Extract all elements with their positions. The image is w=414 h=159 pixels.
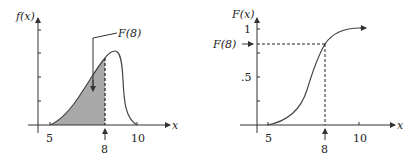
right-tick-10: 10 (353, 132, 367, 145)
right-y-label: F(x) (231, 8, 254, 21)
figure: F(8) f(x) x 5 8 10 F(x) 1 F(8) .5 x 5 8 … (0, 0, 414, 159)
pdf-plot: F(8) f(x) x 5 8 10 (15, 10, 179, 156)
left-tick-5: 5 (46, 132, 53, 145)
left-tick-8: 8 (101, 143, 108, 156)
left-tick-10: 10 (131, 132, 145, 145)
right-tick-half: .5 (241, 71, 252, 84)
right-tick-8: 8 (321, 143, 328, 156)
cdf-plot: F(x) 1 F(8) .5 x 5 8 10 (212, 8, 404, 156)
left-x-label: x (172, 119, 179, 132)
right-annotation: F(8) (212, 38, 236, 51)
right-tick-1: 1 (244, 23, 251, 36)
right-tick-5: 5 (265, 132, 272, 145)
right-x-label: x (397, 119, 404, 132)
left-y-label: f(x) (15, 10, 35, 23)
left-annotation: F(8) (117, 27, 141, 40)
cdf-curve (267, 28, 365, 125)
shaded-area-F8 (50, 58, 105, 125)
